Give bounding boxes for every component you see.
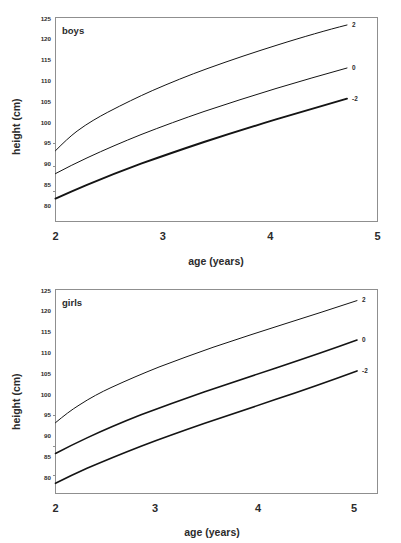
curve-label-minus2-girls: -2 [362, 367, 368, 374]
chart-panel-boys: height (cm) 80 85 90 95 100 105 110 115 … [0, 0, 401, 271]
y-axis-ticks-boys: 80 85 90 95 100 105 110 115 120 125 [41, 15, 52, 209]
y-tick-120: 120 [41, 307, 52, 314]
plot-frame-boys [56, 18, 378, 222]
y-tick-115: 115 [41, 328, 52, 335]
y-axis-title-boys: height (cm) [10, 98, 22, 155]
curve-median-boys [56, 68, 348, 174]
y-axis-title-label: height (cm) [10, 373, 22, 430]
curve-plus2-girls [56, 301, 358, 423]
curve-minus2-girls [56, 371, 358, 483]
curve-minus2-boys [56, 99, 348, 199]
y-tick-100: 100 [41, 119, 52, 126]
y-tick-85: 85 [44, 181, 51, 188]
x-tick-5: 5 [351, 502, 357, 514]
y-tick-80: 80 [44, 202, 51, 209]
curve-median-girls [56, 340, 358, 454]
y-tick-95: 95 [44, 411, 51, 418]
x-axis-title-boys: age (years) [188, 255, 243, 267]
girls-growth-chart: height (cm) 80 85 90 95 100 105 110 115 … [0, 272, 401, 543]
y-tick-90: 90 [44, 432, 51, 439]
y-axis-title-label: height (cm) [10, 98, 22, 155]
x-tick-2: 2 [52, 502, 58, 514]
x-axis-ticks-girls: 2 3 4 5 [52, 502, 357, 514]
curve-label-plus2-boys: 2 [352, 21, 356, 28]
x-tick-3: 3 [152, 502, 158, 514]
y-axis-ticks-girls: 80 85 90 95 100 105 110 115 120 125 [41, 287, 52, 481]
y-tick-125: 125 [41, 287, 52, 294]
y-tick-120: 120 [41, 35, 52, 42]
x-axis-ticks-boys: 2 3 4 5 [52, 230, 380, 242]
curve-label-minus2-boys: -2 [352, 95, 358, 102]
curve-labels-girls: 2 0 -2 [362, 296, 368, 374]
y-tick-85: 85 [44, 453, 51, 460]
y-tick-110: 110 [41, 349, 52, 356]
curves-boys [56, 25, 348, 199]
y-tick-80: 80 [44, 474, 51, 481]
curve-label-median-girls: 0 [362, 336, 366, 343]
panel-title-girls: girls [62, 297, 82, 308]
y-tick-95: 95 [44, 139, 51, 146]
y-axis-title-girls: height (cm) [10, 373, 22, 430]
panel-title-boys: boys [62, 25, 84, 36]
curve-labels-boys: 2 0 -2 [352, 21, 358, 102]
x-axis-title-girls: age (years) [184, 526, 239, 538]
x-tick-2: 2 [52, 230, 58, 242]
y-tick-90: 90 [44, 160, 51, 167]
y-tick-115: 115 [41, 56, 52, 63]
boys-growth-chart: height (cm) 80 85 90 95 100 105 110 115 … [0, 0, 401, 271]
curves-girls [56, 301, 358, 484]
y-tick-100: 100 [41, 391, 52, 398]
x-tick-3: 3 [160, 230, 166, 242]
curve-plus2-boys [56, 25, 348, 151]
y-tick-110: 110 [41, 77, 52, 84]
chart-panel-girls: height (cm) 80 85 90 95 100 105 110 115 … [0, 272, 401, 543]
x-tick-4: 4 [267, 230, 274, 242]
y-tick-105: 105 [41, 98, 52, 105]
curve-label-plus2-girls: 2 [362, 296, 366, 303]
curve-label-median-boys: 0 [352, 64, 356, 71]
y-tick-105: 105 [41, 370, 52, 377]
y-tick-125: 125 [41, 15, 52, 22]
x-tick-4: 4 [255, 502, 262, 514]
x-tick-5: 5 [374, 230, 380, 242]
